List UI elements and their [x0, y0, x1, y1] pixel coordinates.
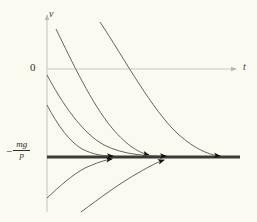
equilibrium-value-label: − mg p	[6, 140, 30, 161]
t-axis-label: t	[243, 62, 246, 72]
minus-sign: −	[6, 145, 12, 157]
solution-curve-above-1	[56, 29, 149, 155]
origin-label: 0	[30, 62, 36, 73]
fraction-mg-over-p: mg p	[13, 140, 30, 161]
solution-curve-below-1	[47, 159, 112, 198]
fraction-denominator: p	[18, 151, 25, 160]
v-axis-label: v	[49, 9, 53, 19]
fraction-numerator: mg	[15, 140, 28, 149]
phase-diagram-figure: v t 0 − mg p	[0, 0, 257, 222]
solution-curve-above-3	[47, 75, 166, 156]
phase-diagram-canvas	[0, 0, 257, 222]
solution-curve-below-2	[81, 160, 164, 212]
solution-curve-above-4	[47, 105, 113, 156]
solution-curve-above-2	[100, 22, 220, 156]
